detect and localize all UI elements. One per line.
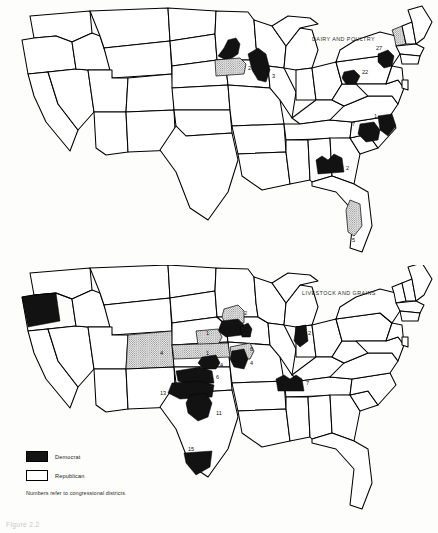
district-label: 4: [250, 360, 253, 366]
district-label: 13: [160, 390, 166, 396]
district-label: 5: [352, 237, 355, 243]
map-dairy-and-poultry: DAIRY AND POULTRY: [0, 0, 438, 268]
legend-label-republican: Republican: [55, 473, 85, 479]
district-marker: [126, 331, 174, 369]
district-label: 4: [38, 310, 41, 316]
legend-swatch-democrat: [26, 451, 48, 462]
district-label: 1: [206, 330, 209, 336]
legend-item-republican: Republican: [26, 469, 206, 482]
district-label: 2: [244, 310, 247, 316]
district-label: 2: [248, 65, 251, 71]
district-label: 6: [228, 39, 231, 45]
district-label: 4: [160, 350, 163, 356]
legend-note: Numbers refer to congressional districts…: [26, 490, 127, 496]
district-label: 6: [216, 374, 219, 380]
legend-item-democrat: Democrat: [26, 450, 206, 463]
legend-label-democrat: Democrat: [55, 454, 80, 460]
district-marker: [215, 58, 246, 76]
district-label: 6: [250, 346, 253, 352]
district-label: 27: [376, 45, 382, 51]
district-label: 4: [220, 362, 223, 368]
district-label: 1: [206, 350, 209, 356]
district-label: 6: [228, 330, 231, 336]
map-title-livestock-and-grains: LIVESTOCK AND GRAINS: [302, 290, 376, 296]
district-label: 5: [248, 332, 251, 338]
district-label: 1: [374, 113, 377, 119]
district-label: 7: [306, 380, 309, 386]
district-label: 2: [308, 330, 311, 336]
district-label: 2: [346, 165, 349, 171]
district-label: 3: [272, 73, 275, 79]
map-legend: Democrat Republican: [26, 450, 206, 488]
district-label: 22: [362, 69, 368, 75]
district-label: 11: [216, 410, 222, 416]
map-title-dairy-and-poultry: DAIRY AND POULTRY: [312, 36, 375, 42]
legend-swatch-republican: [26, 470, 48, 481]
district-marker: [276, 375, 304, 391]
district-marker: [172, 343, 230, 359]
figure-caption: Figure 2.2: [6, 521, 40, 528]
district-label: 7: [352, 121, 355, 127]
figure-page: DAIRY AND POULTRY: [0, 0, 438, 533]
